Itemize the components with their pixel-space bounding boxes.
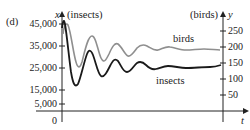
predator-prey-chart: (d) x (insects) 45,000 35,000 25,000 15,… <box>0 0 250 130</box>
left-tick-label: 25,000 <box>30 62 58 73</box>
insects-curve <box>62 21 221 86</box>
insects-annotation: insects <box>156 75 185 86</box>
right-tick-label: 250 <box>228 25 243 36</box>
right-tick-label: 100 <box>228 73 243 84</box>
t-axis-label: t <box>241 115 245 126</box>
right-axis-variable: y <box>227 9 233 20</box>
origin-label: 0 <box>52 115 57 126</box>
figure-label: (d) <box>6 16 19 28</box>
left-tick-label: 45,000 <box>30 18 58 29</box>
right-tick-label: 50 <box>228 89 238 100</box>
right-tick-label: 200 <box>228 41 243 52</box>
right-axis-label: (birds) <box>190 9 218 21</box>
left-tick-label: 5,000 <box>35 98 58 109</box>
left-axis-ticks: 45,000 35,000 25,000 15,000 5,000 0 <box>30 18 66 126</box>
left-tick-label: 35,000 <box>30 40 58 51</box>
left-axis-label: (insects) <box>67 9 103 21</box>
left-tick-label: 15,000 <box>30 84 58 95</box>
birds-curve <box>63 24 220 67</box>
birds-annotation: birds <box>173 33 194 44</box>
right-tick-label: 150 <box>228 57 243 68</box>
